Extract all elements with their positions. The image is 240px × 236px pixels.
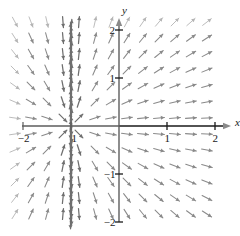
y-tick-label-2: −1 — [104, 169, 116, 180]
field-arrow-head — [145, 116, 149, 120]
field-arrow-head — [145, 132, 149, 136]
field-arrow-head — [69, 225, 73, 229]
field-arrow-head — [61, 56, 65, 60]
field-arrow-head — [32, 116, 36, 120]
direction-field-figure: x y −211221−1−2 — [0, 0, 240, 236]
field-arrow-head — [192, 148, 196, 152]
field-arrow-head — [193, 116, 197, 120]
y-tick-label-1: 1 — [109, 73, 115, 84]
y-axis-label: y — [122, 5, 127, 16]
field-arrow-head — [161, 116, 165, 120]
y-tick-label-3: −2 — [104, 217, 116, 228]
x-tick-label-1: 1 — [71, 133, 77, 144]
field-arrow-head — [177, 116, 181, 120]
field-arrow-head — [77, 200, 81, 204]
y-tick-label-0: 2 — [109, 25, 115, 36]
field-arrow-head — [32, 132, 36, 136]
field-arrow-head — [61, 24, 65, 28]
field-arrow-head — [77, 216, 81, 220]
field-arrow-head — [176, 100, 180, 104]
field-arrow-head — [77, 17, 81, 21]
field-arrow-head — [176, 148, 180, 152]
field-arrow-head — [93, 17, 97, 21]
field-arrow-head — [160, 100, 164, 104]
field-arrow-head — [77, 33, 81, 37]
field-arrow-head — [142, 18, 146, 22]
x-tick-label-0: −2 — [18, 133, 30, 144]
field-arrow-head — [177, 132, 181, 136]
axis-layer — [22, 18, 231, 222]
field-arrow-head — [46, 209, 50, 213]
field-arrow-head — [160, 149, 164, 153]
field-arrow-head — [192, 100, 196, 104]
y-axis-arrowhead — [116, 18, 122, 26]
field-arrow-head — [70, 19, 74, 23]
field-arrow-head — [61, 209, 65, 213]
x-tick-label-3: 2 — [212, 133, 218, 144]
field-arrow-head — [94, 33, 98, 37]
x-axis-label: x — [235, 117, 240, 128]
field-arrow-head — [45, 23, 49, 27]
field-arrow-head — [77, 49, 81, 53]
x-tick-label-2: 1 — [164, 133, 170, 144]
field-arrow-head — [46, 39, 50, 43]
vector-field-canvas — [0, 0, 240, 236]
field-arrow-head — [112, 132, 116, 136]
field-arrow-head — [15, 85, 19, 89]
field-arrow-head — [61, 193, 65, 197]
vector-arrow-layer — [10, 17, 213, 229]
field-arrow-head — [193, 132, 197, 136]
field-arrow-head — [61, 40, 65, 44]
field-arrow-head — [209, 116, 213, 120]
x-axis-arrowhead — [223, 123, 231, 129]
field-arrow-head — [112, 116, 116, 120]
field-arrow-head — [15, 163, 19, 167]
field-arrow-head — [94, 215, 98, 219]
